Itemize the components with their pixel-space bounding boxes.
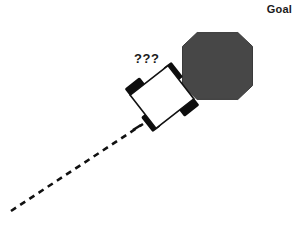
goal-label: Goal — [267, 3, 292, 16]
uncertainty-label: ??? — [134, 52, 159, 66]
diagram-canvas — [0, 0, 295, 228]
goal-octagon — [183, 33, 253, 100]
